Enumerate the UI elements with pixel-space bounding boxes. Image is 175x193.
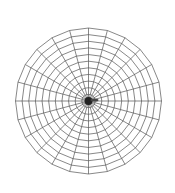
mesh-spoke [89, 101, 108, 172]
hub-protrusion [91, 98, 99, 101]
mesh-spoke [37, 49, 89, 101]
mesh-spoke [89, 101, 160, 120]
mesh-spoke [89, 101, 141, 153]
mesh-spoke [89, 38, 126, 101]
mesh-spoke [89, 82, 160, 101]
mesh-spoke [70, 30, 89, 101]
mesh-spoke [52, 101, 89, 164]
mesh-spoke [25, 65, 88, 102]
mesh-spoke [89, 49, 141, 101]
hub-dot [85, 97, 93, 105]
mesh-spoke [89, 30, 108, 101]
mesh-spoke [37, 101, 89, 153]
mesh-spoke [25, 101, 88, 138]
mesh-spoke [18, 101, 89, 120]
mesh-spoke [70, 101, 89, 172]
mesh-spoke [52, 38, 89, 101]
mesh-spoke [18, 82, 89, 101]
mesh-spoke [89, 65, 152, 102]
mesh-spoke [89, 101, 126, 164]
mesh-spoke [89, 101, 152, 138]
polar-mesh-diagram [0, 0, 175, 193]
